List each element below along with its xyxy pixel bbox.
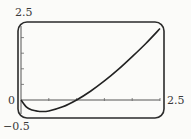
function-curve <box>21 29 160 112</box>
calculator-screen-plot <box>0 0 191 139</box>
y-max-label: 2.5 <box>15 7 33 18</box>
y-min-label: −0.5 <box>3 121 30 132</box>
x-max-label: 2.5 <box>167 95 185 106</box>
screen-frame <box>18 22 164 118</box>
origin-label: 0 <box>8 95 15 106</box>
